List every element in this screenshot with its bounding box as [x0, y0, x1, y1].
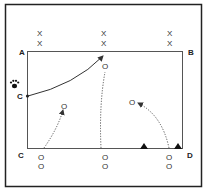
x-marker: X — [101, 29, 107, 38]
o-marker: O — [102, 153, 108, 162]
o-marker: O — [102, 62, 108, 71]
cone-icon — [140, 143, 148, 149]
drill-diagram: A B C D C X X X X X X O O O O O O O O O — [0, 0, 207, 192]
corner-label-c: C — [18, 151, 24, 160]
run-path — [44, 110, 63, 148]
o-marker: O — [102, 162, 108, 171]
run-path — [101, 72, 106, 148]
side-label-c: C — [17, 92, 23, 101]
o-marker: O — [129, 98, 135, 107]
o-marker: O — [166, 153, 172, 162]
o-marker: O — [38, 162, 44, 171]
paw-icon — [10, 80, 19, 89]
corner-label-a: A — [19, 48, 25, 57]
corner-label-b: B — [188, 48, 194, 57]
o-marker: O — [38, 153, 44, 162]
x-marker: X — [167, 39, 173, 48]
x-marker: X — [167, 29, 173, 38]
run-path — [138, 103, 169, 148]
corner-label-d: D — [187, 151, 193, 160]
x-marker: X — [37, 29, 43, 38]
o-marker: O — [166, 162, 172, 171]
o-marker: O — [61, 102, 67, 111]
x-marker: X — [101, 39, 107, 48]
cone-icon — [174, 143, 182, 149]
x-marker: X — [37, 39, 43, 48]
pass-arrow — [28, 56, 103, 96]
